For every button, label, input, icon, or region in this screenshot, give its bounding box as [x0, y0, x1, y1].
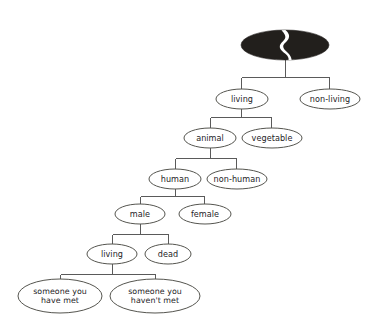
node-non-human-label: non-human [214, 174, 261, 184]
node-someone-have-met-label-line1: someone you [33, 287, 87, 296]
node-human[interactable]: human [149, 169, 201, 189]
node-someone-have-met[interactable]: someone you have met [18, 279, 102, 313]
node-group: living non-living animal vegetable human… [18, 89, 360, 313]
node-animal[interactable]: animal [184, 128, 236, 148]
node-vegetable[interactable]: vegetable [242, 128, 302, 148]
root-node[interactable] [241, 30, 329, 60]
node-living[interactable]: living [216, 89, 268, 109]
node-vegetable-label: vegetable [252, 133, 293, 143]
node-human-label: human [161, 174, 189, 184]
node-male[interactable]: male [115, 204, 165, 224]
classification-tree-diagram: living non-living animal vegetable human… [0, 0, 381, 335]
node-female[interactable]: female [179, 204, 231, 224]
node-someone-havent-met[interactable]: someone you haven't met [110, 279, 200, 313]
node-someone-havent-met-label-line2: haven't met [131, 296, 179, 305]
node-non-human[interactable]: non-human [207, 169, 267, 189]
node-living-2[interactable]: living [87, 244, 137, 264]
node-dead[interactable]: dead [145, 244, 191, 264]
node-someone-have-met-label-line2: have met [41, 296, 79, 305]
node-male-label: male [130, 209, 150, 219]
node-animal-label: animal [196, 133, 224, 143]
node-living-label: living [231, 94, 253, 104]
node-non-living[interactable]: non-living [300, 89, 360, 109]
node-non-living-label: non-living [310, 94, 350, 104]
node-someone-havent-met-label-line1: someone you [128, 287, 182, 296]
node-living-2-label: living [101, 249, 123, 259]
node-dead-label: dead [158, 249, 178, 259]
node-female-label: female [191, 209, 219, 219]
